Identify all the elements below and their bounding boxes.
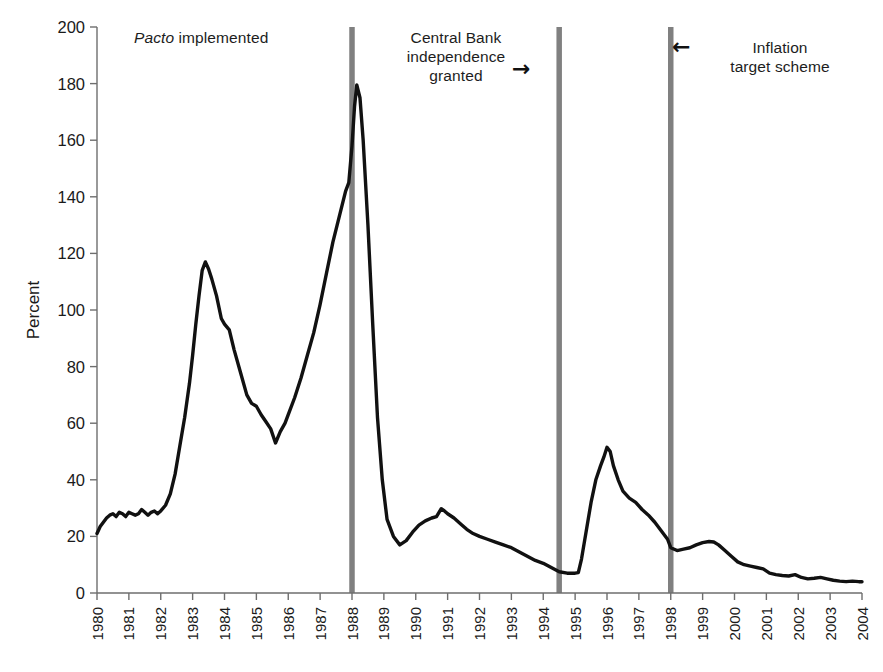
x-axis-tick-label: 1984 [216,607,233,640]
annotation-central-bank-line2: independence [386,47,526,66]
x-axis-tick-label: 1980 [89,607,106,640]
x-axis-tick-label: 2004 [854,607,871,640]
x-axis-tick-label: 1997 [630,607,647,640]
y-axis-tick-label: 100 [57,301,85,319]
y-axis-tick-label: 60 [67,414,85,432]
arrow-left-icon: ← [672,36,690,58]
x-axis-tick-label: 1987 [312,607,329,640]
x-axis-tick-label: 2003 [822,607,839,640]
y-axis-tick-label: 160 [57,131,85,149]
annotation-pacto: Pacto implemented [134,28,268,47]
x-axis-tick-label: 2002 [790,607,807,640]
x-axis-tick-label: 1993 [503,607,520,640]
x-axis-tick-label: 1991 [439,607,456,640]
annotation-central-bank-line1: Central Bank [386,28,526,47]
y-axis-tick-label: 180 [57,75,85,93]
y-axis-tick-label: 0 [76,584,85,602]
x-axis-tick-label: 1994 [535,607,552,640]
annotation-pacto-emphasis: Pacto [134,29,174,46]
x-axis-tick-label: 1981 [120,607,137,640]
data-line-inflation-rate [97,85,862,582]
inflation-line-chart: 0204060801001201401601802001980198119821… [0,0,883,672]
y-axis-tick-label: 140 [57,188,85,206]
x-axis-tick-label: 1983 [184,607,201,640]
x-axis-tick-label: 1996 [599,607,616,640]
annotation-inflation-target-line2: target scheme [715,57,845,76]
annotation-pacto-text: implemented [174,29,268,46]
x-axis-tick-label: 1985 [248,607,265,640]
x-axis-tick-label: 1988 [344,607,361,640]
x-axis-tick-label: 2001 [758,607,775,640]
y-axis-tick-label: 40 [67,471,85,489]
annotation-central-bank: Central Bank independence granted [386,28,526,85]
y-axis-tick-label: 120 [57,244,85,262]
y-axis-title: Percent [24,250,44,370]
x-axis-tick-label: 1982 [152,607,169,640]
arrow-right-icon: → [512,58,530,80]
chart-figure: 0204060801001201401601802001980198119821… [0,0,883,672]
annotation-central-bank-line3: granted [386,66,526,85]
x-axis-tick-label: 1989 [375,607,392,640]
x-axis-tick-label: 1990 [407,607,424,640]
y-axis-tick-label: 200 [57,18,85,36]
x-axis-tick-label: 1986 [280,607,297,640]
x-axis-tick-label: 2000 [726,607,743,640]
x-axis-tick-label: 1999 [694,607,711,640]
y-axis-tick-label: 20 [67,527,85,545]
x-axis-tick-label: 1998 [662,607,679,640]
x-axis-tick-label: 1992 [471,607,488,640]
annotation-inflation-target: Inflation target scheme [715,38,845,76]
x-axis-tick-label: 1995 [567,607,584,640]
annotation-inflation-target-line1: Inflation [715,38,845,57]
y-axis-tick-label: 80 [67,358,85,376]
